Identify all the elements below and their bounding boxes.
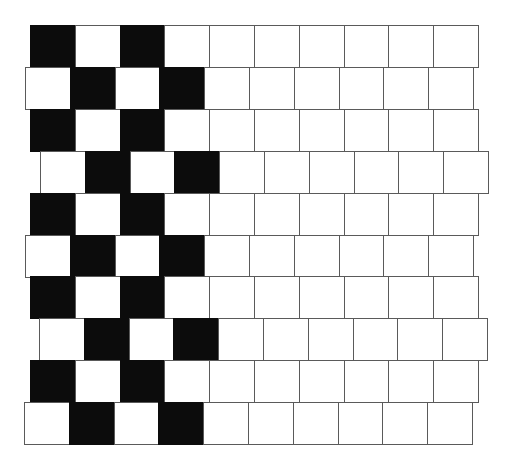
white-tile [398, 151, 444, 194]
black-tile [69, 402, 115, 445]
white-tile [388, 25, 434, 68]
black-tile [120, 360, 165, 403]
white-tile [383, 67, 429, 110]
white-tile [308, 318, 354, 361]
black-tile [158, 402, 204, 445]
white-tile [433, 109, 479, 152]
black-tile [70, 235, 116, 278]
black-tile [30, 109, 76, 152]
white-tile [428, 235, 474, 278]
white-tile [299, 276, 345, 319]
white-tile [443, 151, 489, 194]
white-tile [353, 318, 398, 361]
white-tile [339, 67, 384, 110]
white-tile [442, 318, 488, 361]
white-tile [24, 402, 70, 445]
white-tile [130, 151, 175, 194]
white-tile [164, 109, 210, 152]
tile-row [30, 276, 478, 318]
white-tile [433, 25, 479, 68]
white-tile [203, 402, 249, 445]
white-tile [209, 109, 255, 152]
white-tile [164, 360, 210, 403]
white-tile [129, 318, 174, 361]
white-tile [382, 402, 428, 445]
white-tile [433, 276, 479, 319]
white-tile [114, 402, 159, 445]
white-tile [209, 276, 255, 319]
cafe-wall-figure [0, 0, 508, 472]
white-tile [209, 360, 255, 403]
black-tile [84, 318, 130, 361]
white-tile [309, 151, 355, 194]
white-tile [293, 402, 339, 445]
black-tile [30, 25, 76, 68]
white-tile [433, 360, 479, 403]
white-tile [294, 235, 340, 278]
black-tile [159, 67, 205, 110]
tile-row [24, 402, 472, 444]
white-tile [115, 67, 160, 110]
white-tile [428, 67, 474, 110]
white-tile [75, 25, 121, 68]
white-tile [75, 360, 121, 403]
black-tile [70, 67, 116, 110]
white-tile [39, 318, 85, 361]
white-tile [339, 235, 384, 278]
white-tile [344, 276, 389, 319]
white-tile [433, 193, 479, 236]
white-tile [388, 109, 434, 152]
white-tile [249, 67, 295, 110]
black-tile [120, 193, 165, 236]
white-tile [388, 360, 434, 403]
white-tile [254, 360, 300, 403]
black-tile [120, 109, 165, 152]
white-tile [25, 235, 71, 278]
white-tile [219, 151, 265, 194]
black-tile [174, 151, 220, 194]
white-tile [218, 318, 264, 361]
white-tile [344, 193, 389, 236]
white-tile [344, 25, 389, 68]
white-tile [263, 318, 309, 361]
white-tile [249, 235, 295, 278]
white-tile [209, 193, 255, 236]
tile-row [30, 109, 478, 151]
tile-row [30, 360, 478, 402]
tile-row [39, 318, 487, 360]
white-tile [299, 25, 345, 68]
white-tile [25, 67, 71, 110]
white-tile [388, 193, 434, 236]
white-tile [164, 193, 210, 236]
white-tile [40, 151, 86, 194]
black-tile [85, 151, 131, 194]
white-tile [164, 25, 210, 68]
white-tile [254, 109, 300, 152]
black-tile [159, 235, 205, 278]
white-tile [397, 318, 443, 361]
tile-row [40, 151, 488, 193]
white-tile [344, 109, 389, 152]
white-tile [204, 67, 250, 110]
white-tile [294, 67, 340, 110]
white-tile [254, 276, 300, 319]
white-tile [354, 151, 399, 194]
black-tile [30, 193, 76, 236]
white-tile [204, 235, 250, 278]
white-tile [115, 235, 160, 278]
white-tile [75, 109, 121, 152]
white-tile [209, 25, 255, 68]
black-tile [173, 318, 219, 361]
tile-row [25, 67, 473, 109]
white-tile [264, 151, 310, 194]
white-tile [299, 193, 345, 236]
white-tile [254, 25, 300, 68]
white-tile [299, 360, 345, 403]
white-tile [75, 193, 121, 236]
black-tile [120, 25, 165, 68]
white-tile [75, 276, 121, 319]
tile-row [30, 25, 478, 67]
white-tile [254, 193, 300, 236]
white-tile [299, 109, 345, 152]
tile-row [30, 193, 478, 235]
